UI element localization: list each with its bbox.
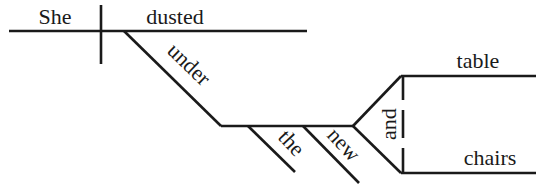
adjective-word: new — [322, 122, 365, 166]
conjunction-word: and — [376, 108, 401, 140]
object2-word: chairs — [464, 145, 517, 170]
verb-word: dusted — [146, 4, 203, 29]
sentence-diagram: She dusted under the new and table chair… — [0, 0, 536, 189]
object1-word: table — [457, 48, 500, 73]
preposition-word: under — [163, 38, 217, 91]
subject-word: She — [39, 4, 72, 29]
